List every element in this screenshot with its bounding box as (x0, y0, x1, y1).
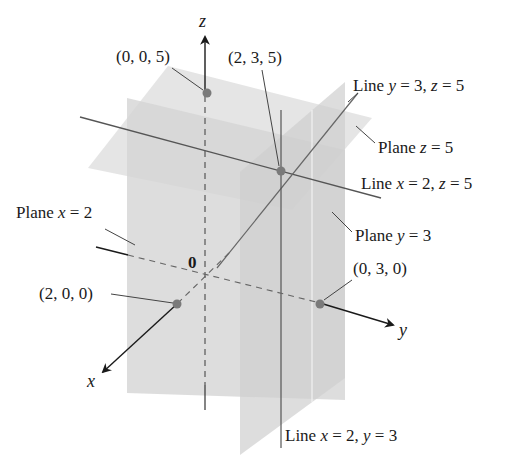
label-plane-x2: Plane x = 2 (16, 203, 92, 222)
label-line-x2-y3: Line x = 2, y = 3 (285, 426, 397, 445)
label-plane-y3: Plane y = 3 (355, 226, 431, 245)
y-axis-left (96, 247, 128, 255)
point-0-0-5 (203, 89, 212, 98)
x-axis-label: x (86, 371, 95, 391)
point-2-3-5 (277, 167, 286, 176)
label-point-0-3-0: (0, 3, 0) (353, 259, 407, 278)
label-line-y3-z5: Line y = 3, z = 5 (353, 76, 464, 95)
z-axis-label: z (198, 11, 206, 31)
origin-label: 0 (188, 253, 197, 272)
point-2-0-0 (173, 300, 182, 309)
label-line-x2-z5: Line x = 2, z = 5 (361, 174, 472, 193)
y-axis-label: y (397, 320, 407, 340)
label-plane-z5: Plane z = 5 (378, 138, 453, 157)
leader-plane-z5 (356, 126, 375, 143)
coordinate-diagram: z y x 0 (0, 0, 5) (2, 3, 5) (2, 0, 0) (0… (0, 0, 514, 459)
point-0-3-0 (316, 300, 325, 309)
label-point-0-0-5: (0, 0, 5) (116, 47, 170, 66)
label-point-2-0-0: (2, 0, 0) (39, 284, 93, 303)
label-point-2-3-5: (2, 3, 5) (228, 48, 282, 67)
